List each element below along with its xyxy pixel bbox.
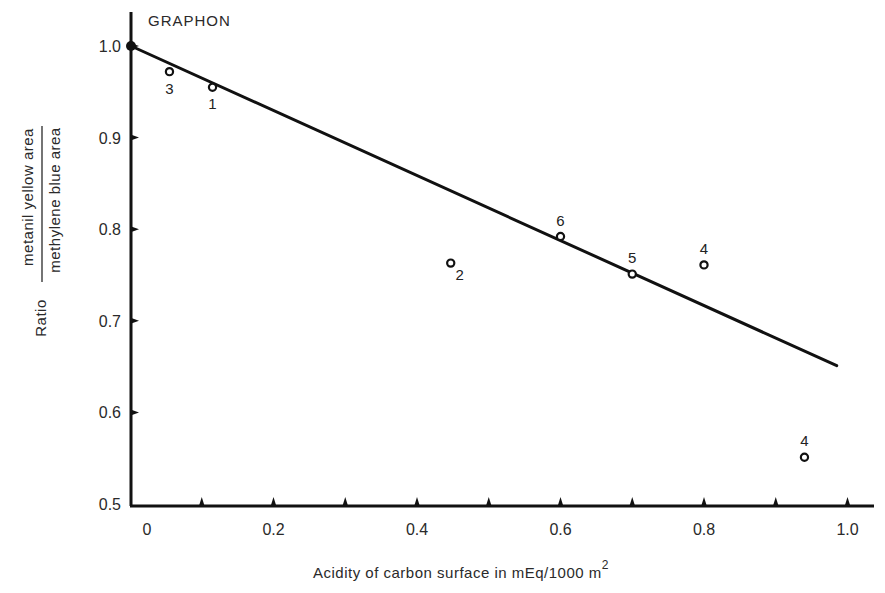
x-tick-label: 1.0 — [836, 521, 858, 538]
x-tick — [630, 497, 635, 505]
point-label: 5 — [628, 249, 636, 266]
data-point — [447, 259, 454, 266]
y-tick-label: 0.5 — [99, 496, 121, 513]
data-point — [126, 41, 136, 51]
y-axis-title-denominator: methylene blue area — [46, 127, 63, 273]
y-tick — [132, 227, 139, 232]
y-axis-title-numerator: metanil yellow area — [19, 128, 36, 266]
y-tick — [132, 135, 139, 140]
y-axis-title: Ratio metanil yellow area methylene blue… — [19, 126, 63, 337]
x-axis-title-superscript: 2 — [602, 558, 609, 572]
x-tick — [271, 497, 276, 505]
tick-labels: 00.20.40.60.81.01.00.90.80.70.60.5 — [99, 38, 859, 538]
point-label: 6 — [556, 212, 564, 229]
x-tick — [773, 497, 778, 505]
x-tick — [845, 497, 850, 505]
ticks — [132, 44, 850, 506]
y-tick — [132, 410, 139, 415]
y-axis-title-prefix: Ratio — [32, 299, 49, 337]
x-tick-label: 0.8 — [693, 521, 715, 538]
point-annotations: 3126544 — [165, 80, 808, 450]
y-tick-label: 0.6 — [99, 404, 121, 421]
x-axis-title: Acidity of carbon surface in mEq/1000 m2 — [313, 558, 609, 581]
data-point — [166, 68, 173, 75]
point-label: 2 — [456, 266, 464, 283]
y-tick-label: 0.9 — [99, 130, 121, 147]
data-point — [557, 233, 564, 240]
x-tick — [199, 497, 204, 505]
chart-title: GRAPHON — [148, 12, 231, 29]
point-label: 3 — [165, 80, 173, 97]
axes — [130, 12, 874, 506]
x-tick — [702, 497, 707, 505]
x-tick — [558, 497, 563, 505]
data-point — [209, 84, 216, 91]
fit-line — [131, 46, 837, 366]
y-tick-label: 0.7 — [99, 313, 121, 330]
fit-line-group — [131, 46, 837, 366]
data-point — [801, 454, 808, 461]
chart: 00.20.40.60.81.01.00.90.80.70.60.5 31265… — [0, 0, 885, 593]
x-tick — [486, 497, 491, 505]
point-label: 4 — [800, 432, 808, 449]
x-tick-label: 0 — [143, 521, 152, 538]
x-tick-label: 0.6 — [549, 521, 571, 538]
point-label: 4 — [700, 240, 708, 257]
x-tick-label: 0.2 — [262, 521, 284, 538]
y-tick — [132, 318, 139, 323]
point-label: 1 — [208, 95, 216, 112]
x-tick — [343, 497, 348, 505]
y-tick-label: 1.0 — [99, 38, 121, 55]
x-axis-title-text: Acidity of carbon surface in mEq/1000 m — [313, 564, 602, 581]
x-tick — [415, 497, 420, 505]
x-tick-label: 0.4 — [406, 521, 428, 538]
data-point — [700, 261, 707, 268]
y-tick-label: 0.8 — [99, 221, 121, 238]
data-point — [629, 270, 636, 277]
